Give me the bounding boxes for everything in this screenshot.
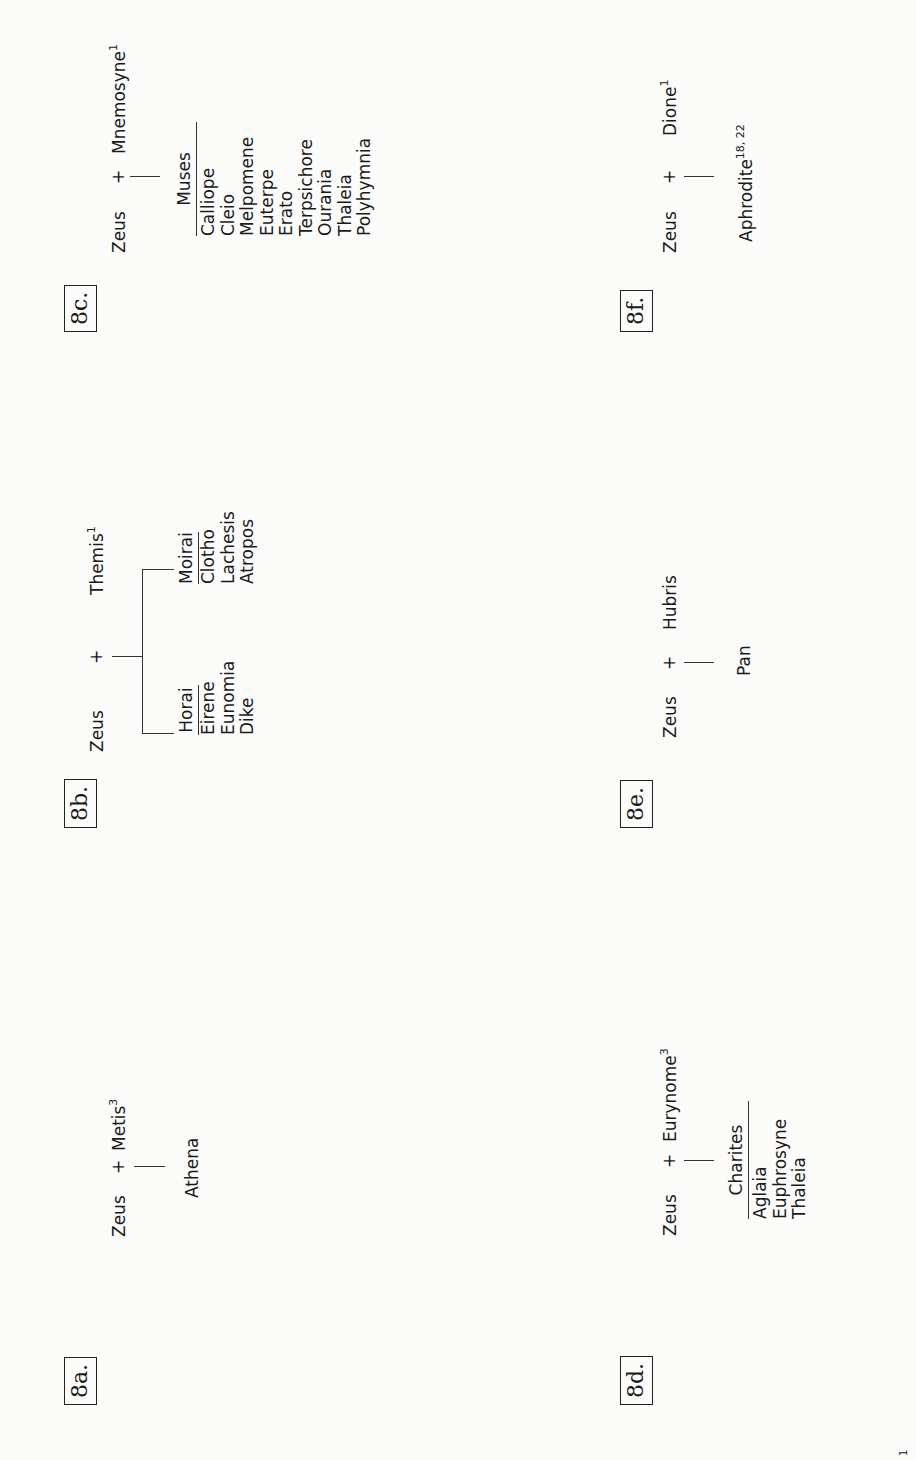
father-8b: Zeus — [87, 710, 107, 752]
plus-8b: + — [86, 650, 106, 664]
diagram-label-8a: 8a. — [64, 1357, 97, 1405]
child-8e-pan: Pan — [734, 645, 754, 676]
member-eirene: Eirene — [199, 685, 219, 735]
mother-8f: Dione1 — [660, 80, 680, 136]
member-clotho: Clotho — [199, 532, 219, 584]
plus-8c: + — [108, 170, 128, 184]
descent-line-8c — [130, 176, 160, 177]
member-eunomia: Eunomia — [219, 685, 239, 735]
mother-8d: Eurynome3 — [660, 1048, 680, 1142]
diagram-label-8c: 8c. — [64, 285, 97, 332]
plus-8f: + — [659, 170, 679, 184]
group-charites: Charites Aglaia Euphrosyne Thaleia — [726, 1101, 810, 1219]
branch-line-moirai — [142, 569, 174, 570]
mother-8e: Hubris — [660, 575, 680, 630]
mother-8b: Themis1 — [87, 526, 107, 595]
group-heading-muses: Muses — [174, 122, 197, 236]
sibling-bar-8b — [142, 570, 143, 734]
page-number: 1 — [898, 1450, 909, 1456]
branch-line-horai — [142, 733, 174, 734]
diagram-label-8b: 8b. — [64, 779, 97, 828]
plus-8a: + — [108, 1160, 128, 1174]
father-8d: Zeus — [660, 1194, 680, 1236]
member-thaleia: Thaleia — [336, 122, 356, 236]
member-euterpe: Euterpe — [258, 122, 278, 236]
group-moirai: Moirai Clotho Lachesis Atropos — [176, 532, 258, 584]
descent-line-8a — [134, 1166, 165, 1167]
group-horai: Horai Eirene Eunomia Dike — [176, 685, 258, 735]
father-8e: Zeus — [660, 696, 680, 738]
descent-line-8e — [684, 662, 714, 663]
member-terpsichore: Terpsichore — [297, 122, 317, 236]
member-atropos: Atropos — [238, 532, 258, 584]
plus-8d: + — [659, 1154, 679, 1168]
descent-line-8f — [684, 176, 714, 177]
group-heading-charites: Charites — [726, 1101, 749, 1219]
member-cleio: Cleio — [219, 122, 239, 236]
group-muses: Muses Calliope Cleio Melpomene Euterpe E… — [174, 122, 375, 236]
mother-8c: Mnemosyne1 — [109, 44, 129, 154]
father-8f: Zeus — [660, 211, 680, 253]
child-8a-athena: Athena — [182, 1138, 202, 1198]
plus-8e: + — [659, 656, 679, 670]
member-calliope: Calliope — [199, 122, 219, 236]
member-erato: Erato — [277, 122, 297, 236]
diagram-label-8d: 8d. — [620, 1356, 653, 1405]
child-8f-aphrodite: Aphrodite18, 22 — [736, 124, 756, 242]
diagram-label-8e: 8e. — [620, 780, 653, 828]
member-ourania: Ourania — [316, 122, 336, 236]
group-heading-moirai: Moirai — [176, 532, 199, 584]
member-lachesis: Lachesis — [219, 532, 239, 584]
member-dike: Dike — [238, 685, 258, 735]
member-melpomene: Melpomene — [238, 122, 258, 236]
father-8c: Zeus — [109, 211, 129, 253]
member-aglaia: Aglaia — [751, 1101, 771, 1219]
group-heading-horai: Horai — [176, 685, 199, 735]
member-thaleia-charites: Thaleia — [790, 1101, 810, 1219]
member-polyhymnia: Polyhymnia — [355, 122, 375, 236]
descent-line-8d — [684, 1160, 714, 1161]
genealogy-page: 8a. Zeus + Metis3 Athena 8b. Zeus + Them… — [0, 0, 916, 1460]
father-8a: Zeus — [109, 1195, 129, 1237]
descent-line-8b — [112, 656, 142, 657]
member-euphrosyne: Euphrosyne — [771, 1101, 791, 1219]
diagram-label-8f: 8f. — [620, 290, 653, 332]
mother-8a: Metis3 — [109, 1099, 129, 1151]
